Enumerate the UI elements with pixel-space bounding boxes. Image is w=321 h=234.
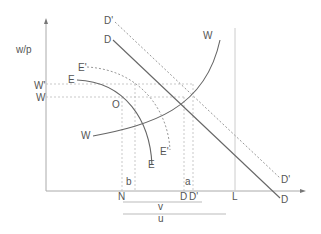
label-d-prime: D' xyxy=(104,15,113,26)
label-e-end: E xyxy=(148,159,155,170)
labor-market-diagram: w/p W' W D' D D' D W W E E E' E' O a b N… xyxy=(0,0,321,234)
demand-curve-d xyxy=(113,40,280,198)
curve-e-prime xyxy=(87,67,170,150)
label-e-prime: E' xyxy=(78,62,87,73)
y-axis-label: w/p xyxy=(15,44,32,55)
span-label-u: u xyxy=(158,213,164,224)
label-d-end: D xyxy=(281,194,288,205)
label-d: D xyxy=(104,34,111,45)
label-w-left: W xyxy=(81,130,91,141)
point-b: b xyxy=(126,176,132,187)
tick-n: N xyxy=(118,191,125,202)
label-d-prime-end: D' xyxy=(281,174,290,185)
span-label-v: v xyxy=(158,201,163,212)
wage-curve-w xyxy=(93,40,220,136)
point-a: a xyxy=(185,176,191,187)
diagram-canvas: w/p W' W D' D D' D W W E E E' E' O a b N… xyxy=(0,0,321,234)
tick-d-prime: D' xyxy=(189,191,198,202)
label-w-top: W xyxy=(203,30,213,41)
span-lines xyxy=(123,202,226,214)
tick-l: L xyxy=(232,191,238,202)
label-e-prime-end: E' xyxy=(160,146,169,157)
point-o: O xyxy=(112,99,120,110)
demand-curve-d-prime xyxy=(115,22,280,178)
tick-d: D xyxy=(180,191,187,202)
y-axis-arrow-icon xyxy=(44,18,48,24)
tick-w-prime: W' xyxy=(34,80,45,91)
label-e: E xyxy=(68,74,75,85)
curve-e xyxy=(77,80,152,165)
tick-w: W xyxy=(36,92,46,103)
axes xyxy=(44,18,306,193)
x-axis-arrow-icon xyxy=(300,189,306,193)
